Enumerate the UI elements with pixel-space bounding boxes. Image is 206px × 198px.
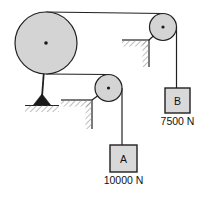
pulley-diagram: B 7500 N A 10000 N <box>0 0 206 198</box>
block-b-weight-label: 7500 N <box>161 115 195 127</box>
block-b: B 7500 N <box>161 88 195 127</box>
large-pulley-hub <box>44 41 48 45</box>
ground-hatch <box>25 106 59 113</box>
right-bracket <box>122 40 149 67</box>
block-a-letter: A <box>120 153 127 165</box>
right-bracket-hatch-v <box>143 40 150 67</box>
middle-bracket-hatch-v <box>86 100 93 129</box>
large-pulley <box>15 12 77 74</box>
middle-pulley-hub <box>107 86 110 89</box>
ground-anchor <box>25 94 59 112</box>
right-pulley <box>150 14 177 41</box>
anchor-triangle <box>33 94 51 106</box>
rope-top <box>46 12 163 14</box>
middle-pulley <box>95 75 122 102</box>
block-a: A 10000 N <box>104 145 144 186</box>
right-pulley-hub <box>161 25 164 28</box>
rope-lower <box>46 74 109 75</box>
block-a-weight-label: 10000 N <box>104 174 144 186</box>
middle-bracket <box>61 100 92 129</box>
diagram-canvas: B 7500 N A 10000 N <box>0 0 206 198</box>
block-b-letter: B <box>174 95 181 107</box>
